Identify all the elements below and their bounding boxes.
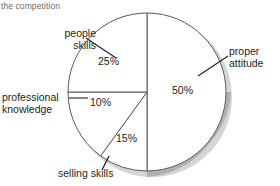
label-professional-knowledge-line2: knowledge bbox=[2, 104, 59, 116]
value-label-professional-knowledge: 10% bbox=[90, 97, 111, 109]
label-people-skills-line1: people bbox=[64, 28, 96, 40]
label-selling-skills: selling skills bbox=[58, 168, 113, 180]
label-people-skills-line2: skills bbox=[64, 40, 96, 52]
label-proper-attitude: proper attitude bbox=[229, 46, 263, 69]
label-professional-knowledge: professional knowledge bbox=[2, 92, 59, 115]
label-people-skills: people skills bbox=[64, 28, 96, 51]
label-professional-knowledge-line1: professional bbox=[2, 92, 59, 104]
label-proper-attitude-line1: proper bbox=[229, 46, 263, 58]
label-proper-attitude-line2: attitude bbox=[229, 58, 263, 70]
value-label-proper-attitude: 50% bbox=[172, 85, 193, 97]
pie-chart-figure: f the competition people skills professi… bbox=[0, 0, 280, 186]
value-label-selling-skills: 15% bbox=[116, 133, 137, 145]
value-label-people-skills: 25% bbox=[98, 56, 119, 68]
